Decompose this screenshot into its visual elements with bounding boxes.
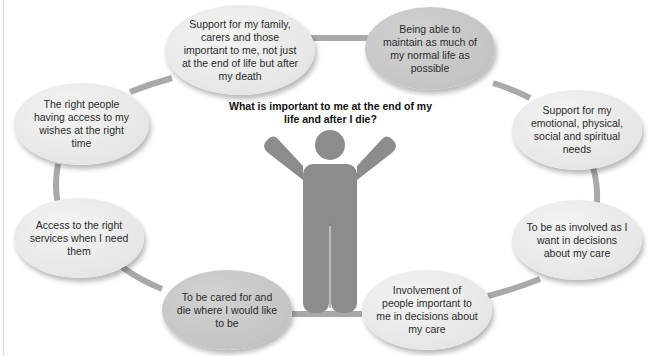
bubble-text: Being able to maintain as much of my nor… — [379, 23, 481, 75]
connector-top-left — [130, 78, 172, 92]
connector-right — [593, 167, 597, 203]
bubble-people-involvement: Involvement of people important to me in… — [362, 270, 492, 350]
bubble-text: Support for my emotional, physical, soci… — [526, 104, 628, 156]
bubble-text: Support for my family, carers and those … — [179, 18, 301, 83]
bubble-text: Access to the right services when I need… — [28, 219, 130, 258]
bubble-text: To be as involved as I want in decisions… — [526, 221, 628, 260]
bubble-right-services: Access to the right services when I need… — [14, 198, 144, 278]
diagram-title: What is important to me at the end of my… — [228, 100, 433, 126]
bubble-family-support: Support for my family, carers and those … — [165, 5, 315, 95]
connector-top-right — [493, 83, 530, 98]
bubble-normal-life: Being able to maintain as much of my nor… — [365, 7, 495, 90]
bubble-text: The right people having access to my wis… — [28, 98, 135, 150]
connector-left — [56, 164, 58, 204]
bubble-involved-decisions: To be as involved as I want in decisions… — [512, 200, 642, 280]
bubble-cared-for: To be cared for and die where I would li… — [162, 270, 292, 350]
bubble-text: To be cared for and die where I would li… — [176, 291, 278, 330]
bubble-holistic-support: Support for my emotional, physical, soci… — [512, 90, 642, 170]
bubble-text: Involvement of people important to me in… — [376, 284, 478, 336]
bubble-right-people: The right people having access to my wis… — [14, 83, 149, 165]
connector-bottom-left — [122, 267, 162, 289]
connector-bottom-right — [488, 279, 540, 296]
